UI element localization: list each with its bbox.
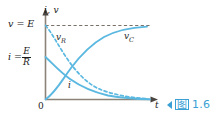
left-triangle-icon (167, 101, 172, 109)
fraction-denominator: R (22, 58, 31, 68)
curve-i (46, 57, 151, 99)
y-axis-label: i, v (44, 6, 59, 15)
label-i-equals-prefix: i = (8, 52, 22, 62)
curve-label-vr: vR (56, 33, 66, 44)
curve-label-vr-subscript: R (61, 37, 66, 45)
x-axis-label: t (155, 101, 159, 110)
y-axis (42, 8, 48, 100)
figure-number: 1.6 (192, 99, 210, 110)
curve-label-vc: vC (124, 32, 134, 43)
figure-char: 图 (175, 99, 189, 110)
curve-label-i: i (68, 81, 71, 90)
fraction-numerator: E (22, 47, 31, 57)
figure-caption: 图 1.6 (167, 99, 210, 110)
label-v-equals-e: v = E (8, 19, 34, 29)
curve-label-vc-subscript: C (129, 36, 134, 44)
fraction-e-over-r: E R (22, 47, 31, 67)
label-i-equals-e-over-r: i = E R (8, 47, 31, 67)
figure-container: i, v v = E i = E R vR vC i 0 t 图 1.6 (0, 0, 223, 122)
origin-label: 0 (38, 102, 44, 111)
